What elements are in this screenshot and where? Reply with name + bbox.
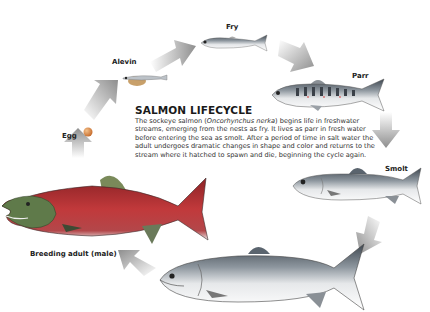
- breeding-adult-fish-icon: [2, 168, 214, 250]
- diagram-description: The sockeye salmon (Oncorhynchus nerka) …: [135, 117, 375, 159]
- species-name: Oncorhynchus nerka: [207, 117, 275, 125]
- description-start: The sockeye salmon (: [135, 117, 207, 125]
- fry-label: Fry: [226, 23, 238, 31]
- ocean-adult-fish-icon: [158, 240, 368, 312]
- parr-fish-icon: [270, 73, 390, 113]
- breeding-adult-label: Breeding adult (male): [30, 250, 117, 258]
- alevin-label: Alevin: [112, 58, 137, 66]
- fry-fish-icon: [199, 33, 271, 53]
- alevin-fish-icon: [121, 70, 171, 90]
- diagram-title: SALMON LIFECYCLE: [135, 104, 252, 116]
- egg-label: Egg: [62, 132, 77, 140]
- egg-icon: [82, 126, 94, 138]
- smolt-fish-icon: [291, 160, 425, 208]
